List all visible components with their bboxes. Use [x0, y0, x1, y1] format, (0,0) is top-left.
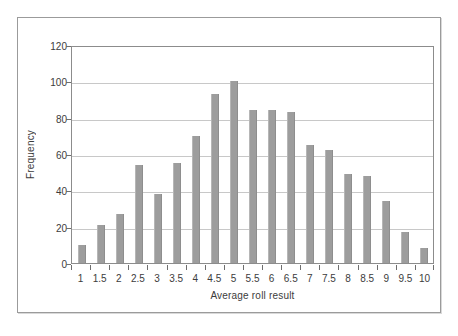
- x-axis-tick-label: 5.5: [243, 273, 262, 287]
- x-axis-tick-label: 8.5: [358, 273, 377, 287]
- x-axis-tick-label: 6: [262, 273, 281, 287]
- bar[interactable]: [211, 94, 219, 263]
- x-axis-tick-mark: [109, 265, 110, 270]
- y-axis-tick-label: 80: [40, 113, 67, 124]
- y-axis-title: Frequency: [23, 104, 39, 204]
- bar[interactable]: [97, 225, 105, 263]
- x-axis-tick-labels: 11.522.533.544.555.566.577.588.599.510: [71, 273, 434, 287]
- bar-slot: [300, 47, 319, 263]
- bar[interactable]: [382, 201, 390, 263]
- x-axis-tick-mark: [167, 265, 168, 270]
- x-axis-tick-label: 2: [109, 273, 128, 287]
- bar[interactable]: [173, 163, 181, 263]
- bar-slot: [205, 47, 224, 263]
- x-axis-tick-label: 4: [186, 273, 205, 287]
- bar[interactable]: [363, 176, 371, 263]
- x-axis-tick-mark: [319, 265, 320, 270]
- x-axis-tick-label: 1.5: [90, 273, 109, 287]
- x-axis-tick-mark: [377, 265, 378, 270]
- x-axis-tick-mark: [338, 265, 339, 270]
- y-axis-tick-label: 40: [40, 186, 67, 197]
- bar[interactable]: [420, 248, 428, 263]
- bar-slot: [186, 47, 205, 263]
- y-axis-tick-labels: 020406080100120: [40, 40, 67, 270]
- x-axis-tick-label: 10: [415, 273, 434, 287]
- x-axis-tick-mark: [205, 265, 206, 270]
- bar-series: [72, 47, 433, 263]
- x-axis-tick-mark: [90, 265, 91, 270]
- bar[interactable]: [192, 136, 200, 263]
- x-axis-tick-label: 9.5: [396, 273, 415, 287]
- x-axis-tick-mark: [415, 265, 416, 270]
- bar[interactable]: [306, 145, 314, 263]
- y-axis-tick-label: 20: [40, 222, 67, 233]
- bar-slot: [395, 47, 414, 263]
- x-axis-title: Average roll result: [71, 290, 434, 301]
- x-axis-tick-mark: [71, 265, 72, 270]
- bar[interactable]: [325, 150, 333, 263]
- x-axis-tick-label: 5: [224, 273, 243, 287]
- bar-slot: [148, 47, 167, 263]
- x-axis-tick-mark: [433, 265, 434, 270]
- x-axis-tick-mark: [358, 265, 359, 270]
- bar-slot: [129, 47, 148, 263]
- x-axis-tick-label: 1: [71, 273, 90, 287]
- x-axis-tick-mark: [224, 265, 225, 270]
- y-axis-tick-label: 0: [40, 259, 67, 270]
- y-axis-tick-label: 60: [40, 150, 67, 161]
- bar-slot: [414, 47, 433, 263]
- figure-canvas: Frequency 020406080100120 11.522.533.544…: [0, 0, 458, 336]
- x-axis-tick-mark: [262, 265, 263, 270]
- x-axis-tick-label: 2.5: [128, 273, 147, 287]
- bar[interactable]: [154, 194, 162, 263]
- plot-area: [71, 46, 434, 264]
- y-axis-tick-label: 100: [40, 77, 67, 88]
- bar-slot: [167, 47, 186, 263]
- bar[interactable]: [268, 110, 276, 263]
- bar[interactable]: [344, 174, 352, 263]
- x-axis-tick-label: 7.5: [319, 273, 338, 287]
- bar[interactable]: [135, 165, 143, 263]
- bar-slot: [338, 47, 357, 263]
- bar-slot: [281, 47, 300, 263]
- x-axis-tick-mark: [186, 265, 187, 270]
- x-axis-tick-marks: [71, 265, 434, 271]
- bar-slot: [91, 47, 110, 263]
- y-axis-tick-label: 120: [40, 41, 67, 52]
- x-axis-tick-mark: [147, 265, 148, 270]
- bar-slot: [72, 47, 91, 263]
- bar-slot: [262, 47, 281, 263]
- bar-slot: [319, 47, 338, 263]
- x-axis-tick-label: 4.5: [205, 273, 224, 287]
- x-axis-tick-label: 9: [377, 273, 396, 287]
- bar[interactable]: [116, 214, 124, 263]
- x-axis-tick-label: 6.5: [281, 273, 300, 287]
- x-axis-tick-mark: [281, 265, 282, 270]
- bar[interactable]: [249, 110, 257, 263]
- x-axis-tick-label: 3.5: [167, 273, 186, 287]
- bar[interactable]: [230, 81, 238, 263]
- x-axis-tick-mark: [300, 265, 301, 270]
- bar-slot: [243, 47, 262, 263]
- x-axis-tick-label: 8: [339, 273, 358, 287]
- bar[interactable]: [78, 245, 86, 263]
- x-axis-tick-mark: [128, 265, 129, 270]
- x-axis-tick-mark: [243, 265, 244, 270]
- bar-slot: [376, 47, 395, 263]
- bar-slot: [224, 47, 243, 263]
- x-axis-tick-mark: [396, 265, 397, 270]
- bar[interactable]: [287, 112, 295, 263]
- x-axis-tick-label: 7: [300, 273, 319, 287]
- bar-slot: [110, 47, 129, 263]
- x-axis-tick-label: 3: [147, 273, 166, 287]
- bar-slot: [357, 47, 376, 263]
- bar[interactable]: [401, 232, 409, 263]
